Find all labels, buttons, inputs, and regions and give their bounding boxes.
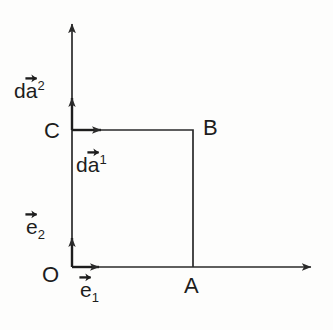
point-label-A: A [184,275,199,297]
vector-label-e1: e1 [80,279,99,300]
vector-label-da1-a: a [88,154,100,175]
vector-label-da1-index: 1 [99,152,106,167]
vector-label-e2-index: 2 [38,227,45,242]
point-label-B: B [203,117,218,139]
vector-label-e2: e2 [26,216,45,237]
vector-label-da2-a: a [26,80,38,101]
vector-label-da1: da1 [76,154,107,175]
point-label-C: C [44,120,60,142]
vector-label-da2-index: 2 [37,78,44,93]
vector-label-e1-index: 1 [92,290,99,305]
vector-diagram-figure: da2 da1 e2 e1 O A B C [0,0,333,330]
vector-label-da2-d: d [14,79,26,102]
vector-label-da1-a-with-arrow: a [88,154,100,175]
vector-label-e2-e: e [26,216,38,237]
area-element-rectangle-edges [72,130,193,267]
vector-label-da1-d: d [76,153,88,176]
vector-label-e2-e-with-arrow: e [26,216,38,237]
vector-label-da2: da2 [14,80,45,101]
vector-label-e1-e: e [80,279,92,300]
vector-label-e1-e-with-arrow: e [80,279,92,300]
vector-label-da2-a-with-arrow: a [26,80,38,101]
point-label-O: O [42,264,59,286]
